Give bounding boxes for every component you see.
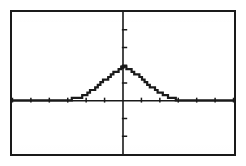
graphing-calculator-screen [10,10,236,156]
screenshot-root [0,0,246,166]
peak-marker [121,65,125,69]
figure-caption [0,0,1,1]
annotations-group [121,65,125,69]
plot-area [12,12,234,154]
bell-curve-plot [12,12,234,154]
